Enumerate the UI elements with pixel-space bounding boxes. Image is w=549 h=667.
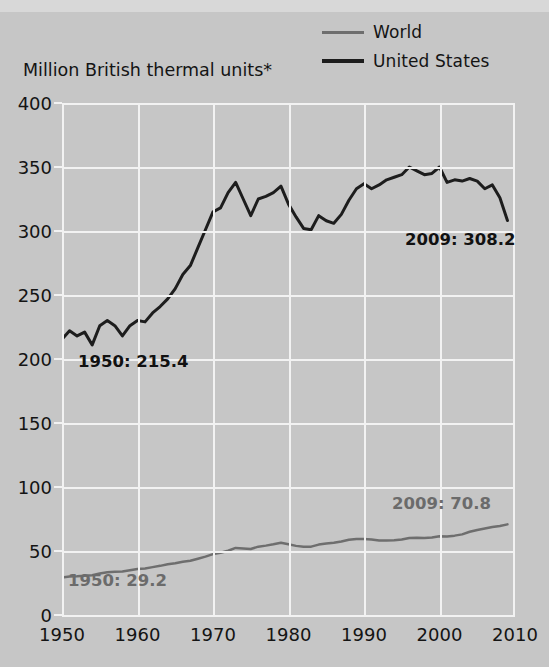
y-tick-mark — [54, 358, 62, 360]
y-tick-mark — [54, 294, 62, 296]
top-edge-strip — [0, 0, 549, 12]
y-tick-mark — [54, 550, 62, 552]
legend-item-united-states: United States — [322, 51, 489, 71]
gridline-vertical — [289, 103, 291, 615]
y-tick-mark — [54, 166, 62, 168]
x-tick-label: 1980 — [266, 624, 312, 645]
y-tick-label: 350 — [0, 157, 52, 178]
y-tick-mark — [54, 614, 62, 616]
gridline-vertical — [364, 103, 366, 615]
y-tick-label: 50 — [0, 541, 52, 562]
x-axis-ticks: 1950196019701980199020002010 — [62, 624, 515, 654]
x-tick-label: 1950 — [39, 624, 85, 645]
gridline-horizontal — [62, 615, 515, 617]
legend-item-world: World — [322, 22, 489, 42]
y-axis-ticks: 050100150200250300350400 — [0, 103, 52, 615]
gridline-vertical — [440, 103, 442, 615]
x-tick-label: 1960 — [115, 624, 161, 645]
x-tick-label: 2000 — [417, 624, 463, 645]
legend-label-world: World — [373, 22, 422, 42]
us-2009-annotation: 2009: 308.2 — [405, 230, 515, 249]
world-2009-annotation: 2009: 70.8 — [392, 494, 491, 513]
x-tick-label: 2010 — [492, 624, 538, 645]
chart-legend: World United States — [322, 22, 489, 71]
y-tick-label: 300 — [0, 221, 52, 242]
y-tick-label: 150 — [0, 413, 52, 434]
y-tick-mark — [54, 422, 62, 424]
x-tick-label: 1990 — [341, 624, 387, 645]
us-1950-annotation: 1950: 215.4 — [78, 352, 188, 371]
world-1950-annotation: 1950: 29.2 — [68, 571, 167, 590]
x-tick-label: 1970 — [190, 624, 236, 645]
y-tick-mark — [54, 230, 62, 232]
y-tick-label: 250 — [0, 285, 52, 306]
y-axis-title: Million British thermal units* — [23, 60, 272, 80]
y-tick-label: 100 — [0, 477, 52, 498]
y-tick-mark — [54, 102, 62, 104]
line-swatch-icon-world — [322, 31, 364, 34]
gridline-vertical — [513, 103, 515, 615]
y-tick-label: 400 — [0, 93, 52, 114]
line-swatch-icon-united-states — [322, 59, 364, 63]
chart-page: World United States Million British ther… — [0, 0, 549, 667]
gridline-vertical — [62, 103, 64, 615]
y-tick-label: 0 — [0, 605, 52, 626]
legend-label-united-states: United States — [373, 51, 489, 71]
gridline-vertical — [213, 103, 215, 615]
y-tick-mark — [54, 486, 62, 488]
y-tick-label: 200 — [0, 349, 52, 370]
